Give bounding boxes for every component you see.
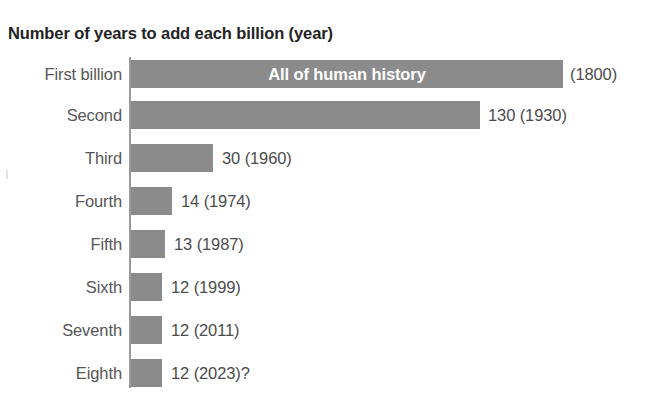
bar-row: Third 30 (1960) — [0, 144, 655, 172]
bar-fourth[interactable] — [131, 187, 172, 215]
value-label-fourth: 14 (1974) — [181, 187, 251, 215]
category-label-fourth: Fourth — [0, 187, 122, 215]
bar-fifth[interactable] — [131, 230, 165, 258]
value-label-second: 130 (1930) — [488, 101, 567, 129]
value-label-eighth: 12 (2023)? — [171, 359, 250, 387]
bar-row: First billion All of human history (1800… — [0, 60, 655, 88]
bar-row: Fourth 14 (1974) — [0, 187, 655, 215]
bar-third[interactable] — [131, 144, 213, 172]
bar-eighth[interactable] — [131, 359, 162, 387]
value-label-fifth: 13 (1987) — [174, 230, 244, 258]
plot-area: First billion All of human history (1800… — [0, 0, 655, 400]
bar-row: Second 130 (1930) — [0, 101, 655, 129]
bar-first-billion[interactable]: All of human history — [131, 60, 563, 88]
bar-row: Eighth 12 (2023)? — [0, 359, 655, 387]
category-label-eighth: Eighth — [0, 359, 122, 387]
category-label-fifth: Fifth — [0, 230, 122, 258]
bar-row: Fifth 13 (1987) — [0, 230, 655, 258]
category-label-first-billion: First billion — [0, 60, 122, 88]
category-label-second: Second — [0, 101, 122, 129]
bar-second[interactable] — [131, 101, 480, 129]
bar-row: Sixth 12 (1999) — [0, 273, 655, 301]
value-label-sixth: 12 (1999) — [171, 273, 241, 301]
bar-sixth[interactable] — [131, 273, 162, 301]
bar-inner-label-first-billion: All of human history — [131, 60, 563, 88]
bar-chart: Number of years to add each billion (yea… — [0, 0, 655, 400]
value-label-third: 30 (1960) — [222, 144, 292, 172]
value-label-first-billion: (1800) — [570, 60, 617, 88]
category-label-sixth: Sixth — [0, 273, 122, 301]
value-label-seventh: 12 (2011) — [171, 316, 240, 344]
bar-row: Seventh 12 (2011) — [0, 316, 655, 344]
category-label-seventh: Seventh — [0, 316, 122, 344]
bar-seventh[interactable] — [131, 316, 162, 344]
category-label-third: Third — [0, 144, 122, 172]
